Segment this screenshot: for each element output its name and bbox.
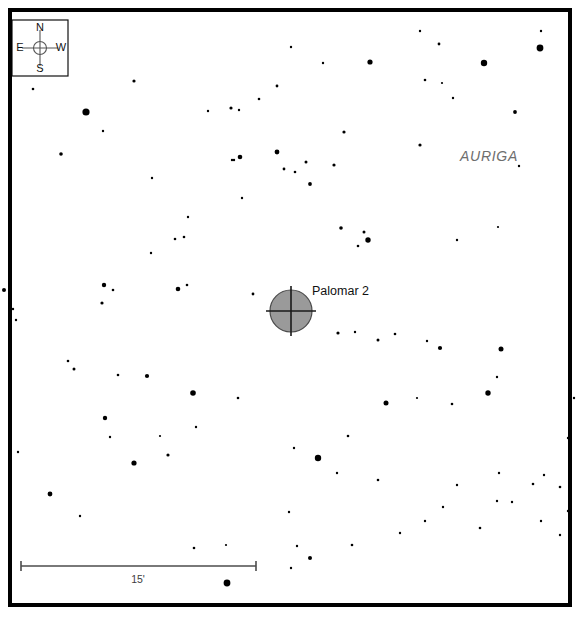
star-point (258, 98, 261, 101)
star-point (32, 88, 35, 91)
star-point (48, 492, 53, 497)
star-point (174, 238, 177, 241)
star-point (426, 340, 428, 342)
compass-label-e: E (16, 41, 23, 53)
star-point (193, 547, 196, 550)
star-point (481, 60, 487, 66)
star-point (131, 460, 136, 465)
star-point (190, 390, 196, 396)
star-point (336, 331, 339, 334)
star-chart-canvas: Palomar 2 AURIGA NSEW 15' (0, 0, 587, 627)
annotation-layer: AURIGA (459, 148, 518, 164)
star-point (537, 45, 544, 52)
star-point (573, 397, 575, 399)
star-point (496, 500, 498, 502)
constellation-label: AURIGA (459, 148, 518, 164)
star-point (347, 435, 350, 438)
star-point (357, 245, 360, 248)
star-point (384, 401, 389, 406)
star-point (176, 287, 181, 292)
star-point (103, 416, 107, 420)
star-point (238, 109, 240, 111)
star-point (238, 155, 243, 160)
compass-rose: NSEW (12, 20, 68, 76)
star-point (132, 79, 135, 82)
star-point (288, 511, 290, 513)
star-point (183, 236, 186, 239)
star-point (224, 580, 231, 587)
star-point (59, 152, 63, 156)
star-point (438, 43, 441, 46)
star-point (117, 374, 120, 377)
star-point (342, 130, 345, 133)
star-point (424, 79, 427, 82)
star-point (294, 171, 297, 174)
star-point (276, 85, 279, 88)
star-point (275, 150, 280, 155)
star-point (438, 346, 442, 350)
star-point (365, 237, 370, 242)
star-point (102, 283, 106, 287)
star-point (305, 161, 308, 164)
star-point (290, 46, 292, 48)
star-point (67, 360, 70, 363)
star-point (229, 106, 232, 109)
scale-bar-label: 15' (131, 573, 145, 585)
star-point (195, 426, 197, 428)
star-point (79, 515, 81, 517)
star-point (354, 331, 356, 333)
star-point (377, 479, 380, 482)
star-point (351, 544, 354, 547)
star-point (186, 284, 189, 287)
cluster-label: Palomar 2 (312, 284, 369, 298)
star-point (441, 82, 443, 84)
star-point (283, 168, 286, 171)
star-point (363, 231, 366, 234)
star-point (559, 486, 562, 489)
star-point (452, 97, 454, 99)
star-point (17, 451, 19, 453)
star-point (293, 447, 295, 449)
star-point (451, 403, 454, 406)
star-point (308, 182, 312, 186)
star-point (419, 30, 421, 32)
star-point (497, 226, 499, 228)
star-chart: Palomar 2 AURIGA NSEW 15' (0, 0, 587, 627)
star-point (496, 376, 498, 378)
compass-label-s: S (36, 62, 43, 74)
star-point (187, 216, 189, 218)
star-point (418, 143, 421, 146)
star-point (315, 455, 321, 461)
star-point (540, 520, 542, 522)
star-point (290, 567, 292, 569)
star-point (399, 532, 401, 534)
star-point (82, 108, 89, 115)
compass-label-w: W (56, 41, 67, 53)
star-point (100, 301, 103, 304)
star-point (416, 397, 418, 399)
star-point (456, 484, 458, 486)
star-point (513, 110, 517, 114)
star-point (207, 110, 209, 112)
star-point (241, 197, 243, 199)
star-point (336, 472, 338, 474)
star-point (231, 159, 233, 161)
star-point (166, 453, 169, 456)
star-point (442, 506, 444, 508)
star-point (456, 239, 458, 241)
star-point (332, 163, 335, 166)
star-point (479, 527, 482, 530)
star-point (159, 435, 161, 437)
star-point (532, 483, 535, 486)
star-point (296, 545, 298, 547)
star-point (499, 347, 504, 352)
star-point (102, 130, 104, 132)
star-point (339, 226, 343, 230)
star-point (518, 165, 520, 167)
star-point (112, 289, 115, 292)
star-point (150, 252, 152, 254)
star-point (498, 472, 500, 474)
star-point (485, 390, 490, 395)
star-point (151, 177, 153, 179)
star-point (2, 288, 6, 292)
